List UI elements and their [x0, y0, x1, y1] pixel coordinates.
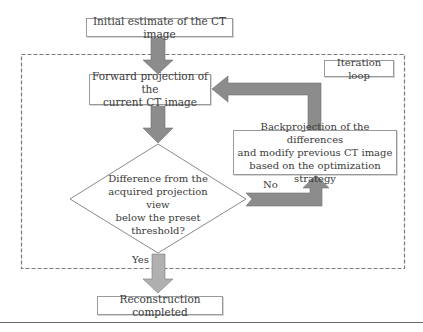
reconstruction-completed-node: Reconstruction completed [97, 296, 223, 315]
yes-label: Yes [132, 254, 149, 266]
decision-text: Difference from the acquired projection … [96, 172, 220, 237]
backprojection-node: Backprojection of the differences and mo… [233, 130, 397, 175]
arrow-initial-to-forward [143, 37, 173, 74]
no-label: No [263, 179, 278, 191]
arrow-forward-to-decision [143, 105, 173, 143]
initial-estimate-node: Initial estimate of the CT image [86, 18, 233, 37]
iteration-loop-label: Iteration loop [324, 60, 394, 77]
forward-projection-node: Forward projection of the current CT ima… [89, 74, 211, 105]
